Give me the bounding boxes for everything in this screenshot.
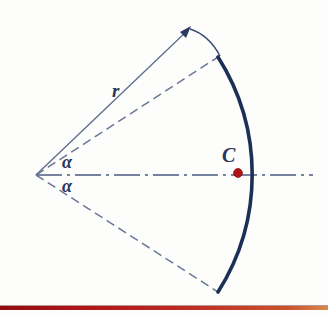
bottom-rule bbox=[0, 306, 328, 310]
radius-dimension-tick bbox=[190, 29, 220, 56]
figure-canvas: r α α C bbox=[0, 0, 328, 315]
centroid-label: C bbox=[222, 144, 235, 167]
angle-label-lower: α bbox=[62, 176, 72, 197]
angle-label-upper: α bbox=[62, 152, 72, 173]
radius-dimension-line bbox=[36, 30, 188, 175]
arc-centroid-diagram bbox=[0, 0, 328, 315]
radius-label: r bbox=[112, 80, 119, 102]
centroid-point-dot bbox=[234, 169, 243, 178]
